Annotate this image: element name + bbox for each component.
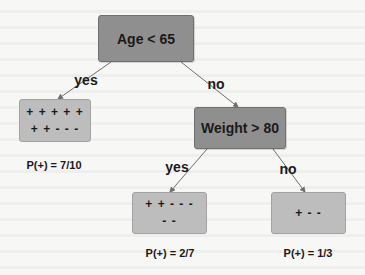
leaf-left-probability: P(+) = 7/10 xyxy=(26,159,81,171)
decision-node-weight-label: Weight > 80 xyxy=(201,120,279,136)
leaf-right-probability: P(+) = 1/3 xyxy=(284,247,333,259)
edge-label-yes-weight: yes xyxy=(165,159,188,175)
leaf-left-line-2: + + - - - xyxy=(31,121,79,138)
leaf-mid-probability: P(+) = 2/7 xyxy=(146,247,195,259)
decision-node-age: Age < 65 xyxy=(98,15,194,62)
leaf-mid-line-1: + + - - - xyxy=(145,196,193,213)
leaf-node-left: + + + + + + + - - - xyxy=(19,99,91,142)
leaf-mid-line-2: - - xyxy=(162,213,176,230)
decision-node-age-label: Age < 65 xyxy=(117,31,175,47)
edge-label-yes-root: yes xyxy=(74,72,97,88)
decision-node-weight: Weight > 80 xyxy=(194,107,286,149)
leaf-node-mid: + + - - - - - xyxy=(132,192,207,234)
leaf-node-right: + - - xyxy=(271,192,346,234)
leaf-left-line-1: + + + + + xyxy=(26,104,83,121)
edge-label-no-root: no xyxy=(207,76,224,92)
edge-label-no-weight: no xyxy=(279,161,296,177)
leaf-right-line-1: + - - xyxy=(295,205,322,222)
